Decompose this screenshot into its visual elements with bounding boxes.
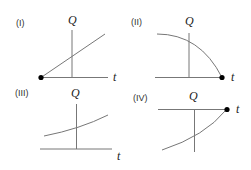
panel-1: (I) Q t xyxy=(16,13,117,84)
graphs-diagram: (I) Q t (II) Q t (III) Q t (IV) Q t xyxy=(0,0,251,170)
y-axis-label: Q xyxy=(189,89,198,103)
endpoint-dot xyxy=(38,75,43,80)
panel-label: (I) xyxy=(16,18,25,28)
y-axis-label: Q xyxy=(71,86,80,100)
panel-label: (II) xyxy=(131,17,142,27)
y-axis-label: Q xyxy=(68,13,77,27)
endpoint-dot xyxy=(224,107,229,112)
panel-4: (IV) Q t xyxy=(133,89,240,152)
panel-2: (II) Q t xyxy=(131,14,235,84)
panel-3: (III) Q t xyxy=(15,86,121,163)
graphs-canvas: (I) Q t (II) Q t (III) Q t (IV) Q t xyxy=(0,0,251,170)
graph-line xyxy=(41,34,105,78)
x-axis-label: t xyxy=(231,70,235,84)
x-axis-label: t xyxy=(117,149,121,163)
endpoint-dot xyxy=(219,75,224,80)
panel-label: (III) xyxy=(15,88,29,98)
y-axis-label: Q xyxy=(185,14,194,28)
x-axis-label: t xyxy=(113,70,117,84)
panel-label: (IV) xyxy=(133,93,148,103)
x-axis-label: t xyxy=(236,102,240,116)
